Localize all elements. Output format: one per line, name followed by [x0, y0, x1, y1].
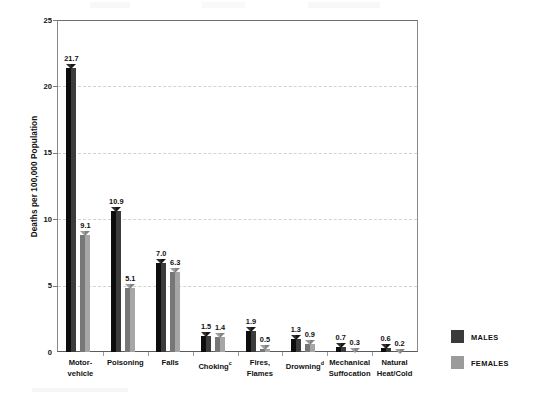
- bar-top-bevel: [201, 332, 211, 337]
- y-tick-label: 0: [26, 348, 52, 357]
- bar-body: [291, 339, 301, 352]
- x-tick-mark: [148, 352, 149, 356]
- bar-top-bevel: [66, 64, 76, 69]
- bar-top-bevel: [80, 231, 90, 236]
- bar-value-label: 6.3: [157, 258, 193, 267]
- bar-top-bevel: [350, 348, 360, 353]
- y-tick-label: 5: [26, 281, 52, 290]
- bar-body: [201, 336, 211, 352]
- bottom-footnote-residue: [32, 388, 128, 392]
- bar-value-label: 9.1: [67, 221, 103, 230]
- bar-top-bevel: [170, 268, 180, 273]
- bar-value-label: 21.7: [53, 54, 89, 63]
- bar-value-label: 5.1: [112, 274, 148, 283]
- category-label: NaturalHeat/Cold: [358, 358, 432, 379]
- bar-body: [80, 235, 90, 352]
- bar-body: [66, 68, 76, 352]
- bar-value-label: 1.9: [233, 317, 269, 326]
- bar-body: [215, 337, 225, 352]
- y-tick-label: 25: [26, 16, 52, 25]
- y-tick-mark: [53, 219, 58, 220]
- y-axis-title: Deaths per 100,000 Population: [30, 67, 39, 287]
- x-tick-mark: [327, 352, 328, 356]
- bar-value-label: 7.0: [143, 249, 179, 258]
- bar-males: [156, 259, 166, 352]
- legend-swatch-females-icon: [451, 356, 464, 369]
- bar-females: [80, 231, 90, 352]
- bar-chart: Deaths per 100,000 Population 0510152025…: [0, 0, 542, 396]
- bar-top-bevel: [246, 327, 256, 332]
- y-tick-mark: [53, 20, 58, 21]
- bar-value-label: 0.5: [247, 335, 283, 344]
- bar-body: [305, 344, 315, 352]
- y-tick-mark: [53, 86, 58, 87]
- legend-label-females: FEMALES: [471, 359, 509, 368]
- bar-body: [170, 272, 180, 352]
- legend-swatch-males-icon: [451, 330, 464, 343]
- x-tick-mark: [193, 352, 194, 356]
- bar-females: [215, 333, 225, 352]
- bar-females: [350, 348, 360, 352]
- bar-males: [66, 64, 76, 352]
- bar-value-label: 10.9: [98, 197, 134, 206]
- bar-females: [125, 284, 135, 352]
- y-tick-mark: [53, 153, 58, 154]
- legend-label-males: MALES: [471, 333, 499, 342]
- bar-females: [305, 340, 315, 352]
- bar-males: [201, 332, 211, 352]
- bar-females: [170, 268, 180, 352]
- bar-top-bevel: [111, 207, 121, 212]
- y-tick-label: 15: [26, 148, 52, 157]
- bar-females: [260, 345, 270, 352]
- bar-value-label: 0.2: [382, 339, 418, 348]
- gridline: [58, 86, 417, 87]
- y-tick-label: 10: [26, 215, 52, 224]
- bar-top-bevel: [260, 345, 270, 350]
- x-tick-mark: [238, 352, 239, 356]
- bar-females: [395, 349, 405, 352]
- bar-top-bevel: [215, 333, 225, 338]
- y-tick-label: 20: [26, 82, 52, 91]
- bar-body: [156, 263, 166, 352]
- y-tick-mark: [53, 286, 58, 287]
- bar-top-bevel: [125, 284, 135, 289]
- bar-top-bevel: [395, 349, 405, 354]
- x-tick-mark: [282, 352, 283, 356]
- x-tick-mark: [103, 352, 104, 356]
- bar-top-bevel: [305, 340, 315, 345]
- gridline: [58, 153, 417, 154]
- x-tick-mark: [372, 352, 373, 356]
- bar-body: [125, 288, 135, 352]
- top-caption-residue: [90, 2, 420, 8]
